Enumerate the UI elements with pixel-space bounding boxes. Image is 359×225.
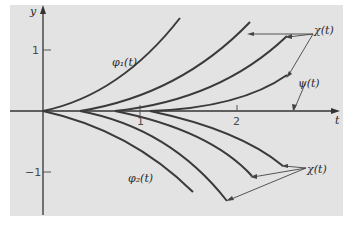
chi-curve-4 (80, 111, 227, 201)
phi2-label: φ₂(t) (128, 172, 153, 185)
lower-pointers (229, 166, 306, 200)
upper-arrowheads (247, 32, 297, 111)
t-tick-2: 2 (233, 115, 240, 128)
y-axis-label: y (29, 5, 37, 18)
phi2-curve (43, 111, 193, 192)
upper-pointers (250, 34, 313, 110)
chi-curve-5 (115, 111, 252, 176)
lower-arrowheads (226, 164, 288, 201)
phi1-label: φ₁(t) (112, 56, 137, 69)
solution-curves-diagram: y t 1 −1 1 2 φ₁(t) φ₂(t) χ(t) χ(t) ψ(t) (0, 0, 359, 225)
chi-curve-3 (150, 75, 287, 111)
lower-curves (43, 111, 283, 201)
y-axis-arrow-icon (40, 5, 46, 14)
y-tick-1: 1 (32, 44, 39, 57)
y-tick-minus-1: −1 (25, 166, 41, 179)
chi-label-lower: χ(t) (306, 163, 327, 176)
axes (10, 12, 333, 215)
chi-label-upper: χ(t) (313, 24, 334, 37)
chi-curve-2 (115, 36, 287, 111)
chi-curve-6 (150, 111, 283, 166)
t-axis-label: t (335, 114, 340, 127)
psi-label: ψ(t) (298, 77, 320, 90)
t-tick-1: 1 (137, 115, 144, 128)
upper-curves (43, 18, 287, 111)
